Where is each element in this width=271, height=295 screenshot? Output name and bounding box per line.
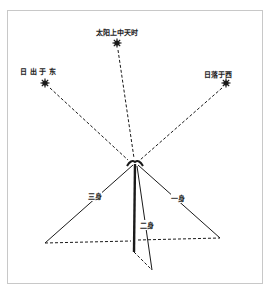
diagram-canvas: 太阳上中天时 日 出 于 东 日落于西 三身 一身 二身 (0, 0, 271, 295)
base-dashed-line-right (138, 238, 220, 240)
sunset-ray (140, 88, 222, 160)
first-shadow-label: 一身 (171, 194, 185, 203)
noon-ray (118, 50, 134, 158)
noon-label: 太阳上中天时 (96, 28, 138, 37)
second-shadow-line (137, 166, 152, 270)
third-shadow-label: 三身 (88, 192, 102, 201)
base-dashed-line (45, 241, 131, 243)
sunrise-ray (50, 88, 128, 160)
sunrise-label: 日 出 于 东 (20, 67, 55, 76)
gnomon-pole (134, 164, 135, 252)
gnomon-diagram: 太阳上中天时 日 出 于 东 日落于西 三身 一身 二身 (0, 0, 271, 295)
second-shadow-label: 二身 (140, 221, 154, 230)
sun-icon (113, 39, 122, 48)
sunset-label: 日落于西 (204, 70, 232, 79)
sun-icon (222, 79, 231, 88)
third-shadow-line (45, 165, 133, 243)
sun-icon (41, 79, 50, 88)
